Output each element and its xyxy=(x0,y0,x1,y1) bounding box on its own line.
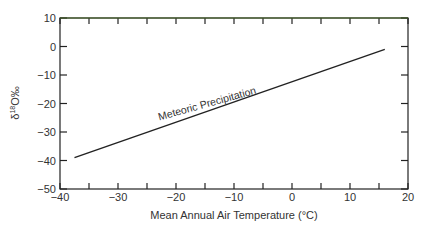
chart: −40−30−20−1001020 100−10−20−30−40−50 Met… xyxy=(0,0,428,233)
series-line xyxy=(75,49,385,157)
y-tick-label: −50 xyxy=(37,183,56,195)
x-tick-label: 0 xyxy=(289,191,295,203)
y-tick-label: 0 xyxy=(50,41,56,53)
x-axis-ticks: −40−30−20−1001020 xyxy=(51,18,414,203)
y-tick-label: −20 xyxy=(37,98,56,110)
x-tick-label: 10 xyxy=(344,191,356,203)
x-tick-label: 20 xyxy=(402,191,414,203)
y-tick-label: 10 xyxy=(44,12,56,24)
x-tick-label: −20 xyxy=(167,191,186,203)
y-tick-label: −40 xyxy=(37,155,56,167)
series-label-meteoric-precipitation: Meteoric Precipitation xyxy=(157,84,258,123)
series-layer xyxy=(75,49,385,157)
x-axis-label: Mean Annual Air Temperature (°C) xyxy=(150,209,317,221)
y-tick-label: −10 xyxy=(37,69,56,81)
y-axis-label: δ18O‰ xyxy=(9,86,21,119)
x-tick-label: −10 xyxy=(225,191,244,203)
x-tick-label: −30 xyxy=(109,191,128,203)
plot-frame xyxy=(60,18,408,189)
y-tick-label: −30 xyxy=(37,126,56,138)
